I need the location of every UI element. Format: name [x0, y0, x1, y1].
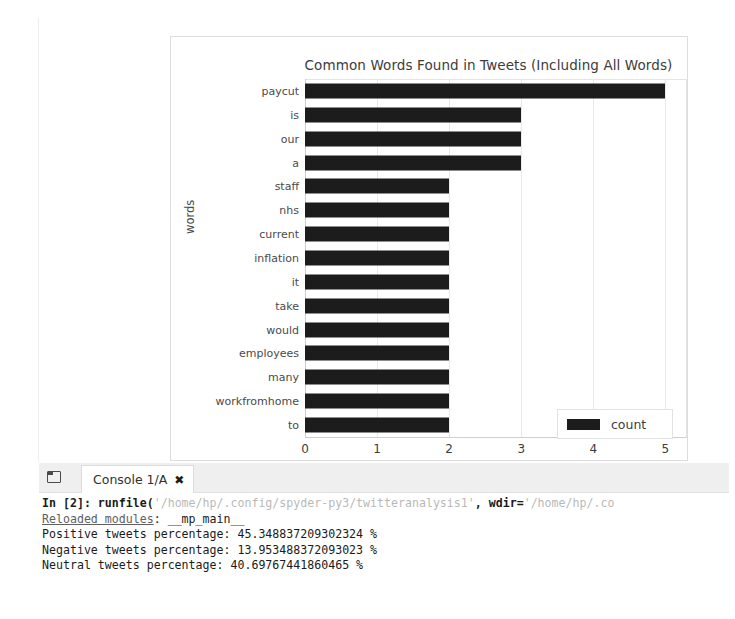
- console-pane: Console 1/A ✖ In [2]: runfile('/home/hp/…: [39, 463, 729, 603]
- console-text-segment: '/home/hp/.config/spyder-py3/twitteranal…: [154, 496, 475, 510]
- x-tick-4: 4: [589, 442, 597, 456]
- console-tab-bar: Console 1/A ✖: [39, 463, 729, 493]
- legend-swatch-count: [567, 419, 600, 430]
- y-axis-tick-label: take: [275, 299, 299, 312]
- console-text-segment: Neutral tweets percentage: 40.6976744186…: [42, 558, 363, 572]
- bar-inflation: [305, 250, 449, 265]
- bar-is: [305, 107, 521, 122]
- bar-would: [305, 322, 449, 337]
- console-text-segment: Reloaded modules: [42, 512, 154, 526]
- bar-nhs: [305, 203, 449, 218]
- bar-row: is: [305, 103, 687, 127]
- bar-a: [305, 155, 521, 170]
- x-tick-2: 2: [445, 442, 453, 456]
- chart-legend: count: [557, 409, 673, 439]
- bar-many: [305, 370, 449, 385]
- console-text-segment: Positive tweets percentage: 45.348837209…: [42, 527, 377, 541]
- console-text-segment: '/home/hp/.co: [524, 496, 615, 510]
- y-axis-tick-label: our: [281, 132, 299, 145]
- bar-row: employees: [305, 342, 687, 366]
- y-axis-tick-label: staff: [275, 180, 299, 193]
- y-axis-tick-label: current: [259, 228, 299, 241]
- console-line: Reloaded modules: __mp_main__: [42, 512, 729, 528]
- bar-to: [305, 418, 449, 433]
- y-axis-tick-label: is: [290, 108, 299, 121]
- console-text-segment: wdir=: [489, 496, 524, 510]
- bar-employees: [305, 346, 449, 361]
- bar-workfromhome: [305, 394, 449, 409]
- bar-our: [305, 131, 521, 146]
- bar-row: many: [305, 365, 687, 389]
- bar-row: inflation: [305, 246, 687, 270]
- bar-current: [305, 227, 449, 242]
- console-output-text[interactable]: In [2]: runfile('/home/hp/.config/spyder…: [42, 496, 729, 603]
- tab-console-1a[interactable]: Console 1/A ✖: [81, 465, 194, 493]
- console-text-segment: : __mp_main__: [154, 512, 245, 526]
- bar-staff: [305, 179, 449, 194]
- bar-row: nhs: [305, 198, 687, 222]
- bar-row: current: [305, 222, 687, 246]
- console-text-segment: In [2]: runfile(: [42, 496, 154, 510]
- bar-row: staff: [305, 174, 687, 198]
- bar-paycut: [305, 83, 665, 98]
- plot-pane: Common Words Found in Tweets (Including …: [39, 18, 729, 462]
- bar-row: our: [305, 127, 687, 151]
- bar-row: it: [305, 270, 687, 294]
- console-line: Neutral tweets percentage: 40.6976744186…: [42, 558, 729, 574]
- browse-tabs-icon[interactable]: [47, 471, 61, 483]
- y-axis-tick-label: to: [288, 419, 299, 432]
- console-tab-label: Console 1/A: [93, 472, 167, 487]
- y-axis-tick-label: employees: [239, 347, 299, 360]
- bar-row: take: [305, 294, 687, 318]
- matplotlib-figure: Common Words Found in Tweets (Including …: [170, 36, 688, 461]
- bar-row: paycut: [305, 79, 687, 103]
- bar-it: [305, 274, 449, 289]
- x-tick-0: 0: [301, 442, 309, 456]
- y-axis-tick-label: would: [266, 323, 299, 336]
- y-axis-tick-label: nhs: [279, 204, 299, 217]
- console-text-segment: ,: [475, 496, 489, 510]
- console-line: Negative tweets percentage: 13.953488372…: [42, 543, 729, 559]
- y-axis-title: words: [183, 200, 197, 234]
- y-axis-tick-label: workfromhome: [216, 395, 299, 408]
- chart-title: Common Words Found in Tweets (Including …: [291, 57, 686, 73]
- y-axis-tick-label: paycut: [261, 84, 299, 97]
- x-tick-3: 3: [517, 442, 525, 456]
- y-axis-tick-label: inflation: [254, 251, 299, 264]
- y-axis-tick-label: a: [292, 156, 299, 169]
- y-axis-tick-label: many: [268, 371, 299, 384]
- legend-label-count: count: [611, 417, 646, 432]
- bar-row: would: [305, 318, 687, 342]
- console-line: Positive tweets percentage: 45.348837209…: [42, 527, 729, 543]
- bar-take: [305, 298, 449, 313]
- plot-axes-area: paycutisourastaffnhscurrentinflationitta…: [305, 79, 687, 437]
- y-axis-tick-label: it: [292, 275, 299, 288]
- x-tick-1: 1: [373, 442, 381, 456]
- bar-row: a: [305, 151, 687, 175]
- close-icon[interactable]: ✖: [174, 474, 184, 486]
- console-text-segment: Negative tweets percentage: 13.953488372…: [42, 543, 377, 557]
- console-line: In [2]: runfile('/home/hp/.config/spyder…: [42, 496, 729, 512]
- x-tick-5: 5: [662, 442, 670, 456]
